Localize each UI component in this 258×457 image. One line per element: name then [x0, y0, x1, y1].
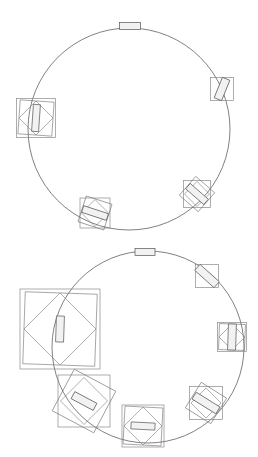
circle-diagram-large-boxes	[0, 243, 258, 453]
diagram-page	[0, 0, 258, 457]
node-right-body	[228, 324, 237, 350]
node-lower-left	[52, 369, 116, 433]
figure-bottom	[0, 243, 258, 453]
node-bottom-right	[179, 176, 214, 211]
node-upper-right-body	[195, 264, 220, 287]
node-left-body	[56, 316, 65, 342]
node-top	[135, 249, 155, 256]
node-bottom-left	[78, 196, 112, 230]
node-top-body	[120, 23, 141, 30]
figure-top	[0, 8, 258, 233]
node-upper-right	[195, 264, 220, 287]
node-bottom-body	[131, 422, 155, 430]
node-left-body	[32, 104, 41, 131]
node-lower-right	[185, 382, 226, 423]
node-bottom-right-body	[186, 183, 209, 204]
node-right	[211, 77, 234, 100]
node-lower-left-body	[71, 392, 97, 411]
node-lower-right-body	[192, 392, 220, 414]
circle-diagram-small-boxes	[0, 8, 258, 233]
node-left	[20, 289, 100, 369]
node-top	[120, 23, 141, 30]
node-left	[17, 99, 56, 138]
node-right-body	[214, 77, 230, 100]
node-top-body	[135, 249, 155, 256]
node-bottom-left-body	[82, 206, 109, 221]
